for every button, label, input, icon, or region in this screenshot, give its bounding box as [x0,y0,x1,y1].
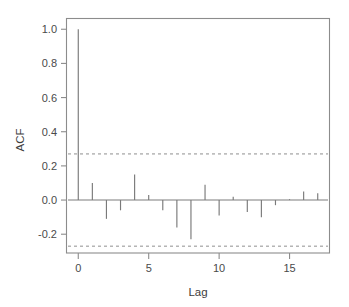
y-tick-label: 0.4 [42,126,57,138]
acf-plot-figure: 1.00.80.60.40.20.0-0.2 051015 ACF Lag [0,0,349,307]
y-tick-label: 0.0 [42,194,57,206]
x-axis-title: Lag [188,286,207,298]
acf-stems [78,29,317,239]
x-tick-label: 15 [283,262,295,274]
x-tick-label: 10 [213,262,225,274]
y-tick-label: 0.8 [42,57,57,69]
x-tick-label: 0 [75,262,81,274]
y-tick-label: 0.6 [42,92,57,104]
y-axis-title: ACF [14,129,26,152]
x-tick-label: 5 [146,262,152,274]
x-axis: 051015 [75,253,295,274]
y-axis: 1.00.80.60.40.20.0-0.2 [38,23,67,240]
acf-plot-canvas: 1.00.80.60.40.20.0-0.2 051015 ACF Lag [0,0,349,307]
y-tick-label: 0.2 [42,160,57,172]
y-tick-label: 1.0 [42,23,57,35]
y-tick-label: -0.2 [38,228,57,240]
